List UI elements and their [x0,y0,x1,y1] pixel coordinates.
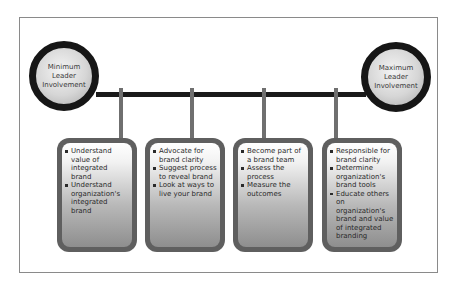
stage-4-list: Responsible for brand clarity Determine … [330,147,395,241]
stage-3-box: Become part of a brand team Assess the p… [233,138,313,252]
list-item: Assess the process [241,164,306,181]
stage-1-list: Understand value of integrated brand Und… [65,147,130,215]
list-item: Advocate for brand clarity [153,147,218,164]
list-item: Measure the outcomes [241,181,306,198]
stage-1-box: Understand value of integrated brand Und… [57,138,137,252]
stage-1-connector [119,88,123,140]
involvement-continuum-bar [96,92,366,97]
list-item: Look at ways to live your brand [153,181,218,198]
stage-2-box: Advocate for brand clarity Suggest proce… [145,138,225,252]
stage-2-connector [190,88,194,140]
list-item: Understand organization's integrated bra… [65,181,130,215]
minimum-involvement-node: Minimum Leader Involvement [29,41,99,111]
list-item: Educate others on organization's brand a… [330,190,395,241]
stage-4-box: Responsible for brand clarity Determine … [322,138,402,252]
maximum-involvement-label: Maximum Leader Involvement [369,64,423,91]
list-item: Become part of a brand team [241,147,306,164]
stage-2-list: Advocate for brand clarity Suggest proce… [153,147,218,198]
list-item: Responsible for brand clarity [330,147,395,164]
stage-3-connector [262,88,266,140]
stage-3-list: Become part of a brand team Assess the p… [241,147,306,198]
list-item: Determine organization's brand tools [330,164,395,190]
stage-4-connector [334,88,338,140]
list-item: Suggest process to reveal brand [153,164,218,181]
minimum-involvement-label: Minimum Leader Involvement [37,63,91,90]
list-item: Understand value of integrated brand [65,147,130,181]
maximum-involvement-node: Maximum Leader Involvement [361,42,431,112]
